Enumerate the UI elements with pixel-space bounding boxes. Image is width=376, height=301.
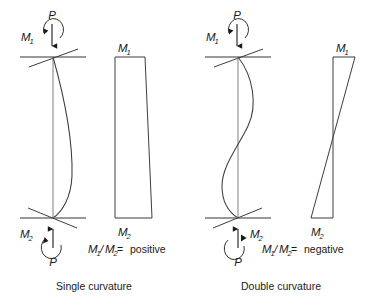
- panel-double-curvature: P M 1 M 2 P: [205, 9, 355, 292]
- top-load-group-right: P M 1: [206, 9, 249, 46]
- ratio-result-double: negative: [304, 243, 344, 255]
- moment-diagram-top-subscript: 1: [127, 48, 131, 57]
- caption-single-curvature: Single curvature: [56, 280, 132, 292]
- bottom-axial-load-label: P: [49, 256, 57, 268]
- bottom-moment-arrowhead-icon: [43, 237, 48, 243]
- bottom-load-group-right: M 2 P: [224, 228, 263, 268]
- moment-diagram-bottom-subscript-right: 2: [319, 232, 325, 241]
- top-moment-arc-icon-right: [229, 19, 249, 38]
- top-moment-arrowhead-icon: [43, 29, 48, 35]
- moment-diagram-shape-single: [115, 57, 152, 218]
- ratio-equals-right: =: [291, 243, 297, 255]
- moment-diagram-double: M 1 M 2: [311, 42, 355, 241]
- deflected-shape-single-curvature: [53, 57, 72, 218]
- moment-diagram-top-subscript-right: 1: [345, 48, 349, 57]
- top-moment-subscript-m1-right: 1: [215, 37, 219, 46]
- bottom-load-group-left: M 2 P: [20, 228, 61, 268]
- bottom-moment-subscript-m2-right: 2: [258, 234, 264, 243]
- bottom-moment-arrowhead-icon-right: [241, 235, 247, 242]
- engineering-diagram: P M 1 M 2: [0, 0, 376, 301]
- moment-diagram-single: M 1 M 2: [115, 42, 152, 241]
- ratio-expression-double: M 1 / M 2 = negative: [262, 243, 344, 258]
- moment-diagram-shape-double: [311, 57, 355, 218]
- ratio-expression-single: M 1 / M 2 = positive: [88, 243, 166, 258]
- figure-canvas: P M 1 M 2: [0, 0, 376, 301]
- ratio-equals: =: [117, 243, 123, 255]
- top-moment-arrowhead-icon-right: [228, 29, 233, 35]
- top-load-group-left: P M 1: [21, 9, 64, 46]
- bottom-axial-load-label-right: P: [234, 256, 242, 268]
- top-moment-subscript-m1: 1: [30, 37, 34, 46]
- ratio-result-single: positive: [130, 243, 166, 255]
- panel-single-curvature: P M 1 M 2: [20, 9, 166, 292]
- moment-diagram-bottom-subscript: 2: [126, 232, 132, 241]
- bottom-moment-subscript-m2: 2: [28, 234, 34, 243]
- top-moment-arc-icon: [44, 19, 64, 38]
- caption-double-curvature: Double curvature: [241, 280, 321, 292]
